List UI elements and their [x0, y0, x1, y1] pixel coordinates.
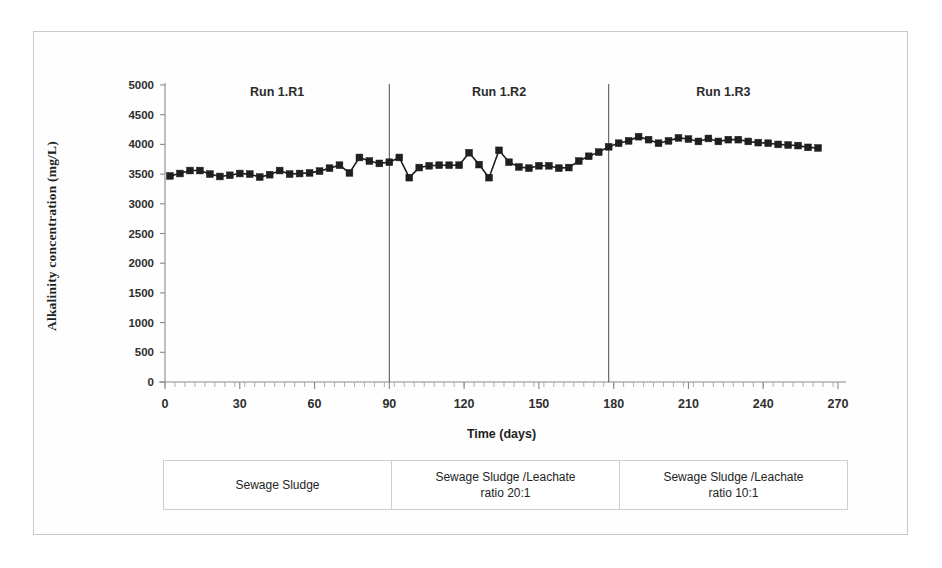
data-point-marker — [236, 170, 243, 177]
data-point-marker — [815, 145, 822, 152]
figure-container: Alkalinity concentration (mg/L) 05001000… — [0, 0, 942, 568]
data-point-marker — [695, 138, 702, 145]
data-point-marker — [256, 174, 263, 181]
x-tick-label: 240 — [753, 397, 774, 411]
data-point-marker — [426, 162, 433, 169]
data-point-marker — [486, 174, 493, 181]
condition-box-line1: Sewage Sludge /Leachate — [663, 469, 803, 485]
y-tick-label: 1000 — [128, 317, 154, 329]
y-tick-label: 0 — [148, 376, 154, 388]
data-point-marker — [406, 174, 413, 181]
data-point-marker — [745, 138, 752, 145]
data-point-marker — [446, 162, 453, 169]
y-tick-label: 2500 — [128, 228, 154, 240]
y-tick-label: 3500 — [128, 168, 154, 180]
data-point-marker — [226, 172, 233, 179]
data-point-marker — [516, 164, 523, 171]
data-point-marker — [276, 167, 283, 174]
x-tick-label: 60 — [308, 397, 322, 411]
data-point-marker — [436, 162, 443, 169]
x-tick-label: 30 — [233, 397, 247, 411]
x-tick-label: 210 — [678, 397, 699, 411]
data-point-marker — [376, 160, 383, 167]
y-tick-label: 5000 — [128, 79, 154, 91]
data-point-marker — [306, 170, 313, 177]
data-point-marker — [715, 138, 722, 145]
data-point-marker — [785, 142, 792, 149]
data-point-marker — [685, 136, 692, 143]
data-point-marker — [296, 170, 303, 177]
data-point-marker — [396, 154, 403, 161]
data-point-marker — [575, 158, 582, 165]
condition-box-1: Sewage Sludge — [164, 461, 392, 509]
data-point-marker — [585, 153, 592, 160]
data-point-marker — [645, 136, 652, 143]
data-point-marker — [286, 171, 293, 178]
data-point-marker — [167, 172, 174, 179]
data-point-marker — [775, 141, 782, 148]
data-point-marker — [555, 165, 562, 172]
data-point-marker — [197, 167, 204, 174]
data-point-marker — [496, 147, 503, 154]
data-point-marker — [506, 159, 513, 166]
y-tick-label: 2000 — [128, 257, 154, 269]
y-tick-label: 1500 — [128, 287, 154, 299]
y-tick-label: 4500 — [128, 109, 154, 121]
x-tick-label: 120 — [454, 397, 475, 411]
condition-box-3: Sewage Sludge /Leachateratio 10:1 — [620, 461, 847, 509]
data-point-marker — [755, 139, 762, 146]
data-point-marker — [805, 144, 812, 151]
data-point-marker — [386, 159, 393, 166]
run-label-2: Run 1.R2 — [472, 85, 526, 99]
data-point-marker — [635, 133, 642, 140]
x-tick-label: 150 — [528, 397, 549, 411]
data-point-marker — [545, 162, 552, 169]
data-point-marker — [795, 142, 802, 149]
data-point-marker — [725, 136, 732, 143]
x-tick-label: 180 — [603, 397, 624, 411]
data-point-marker — [316, 168, 323, 175]
y-tick-label: 3000 — [128, 198, 154, 210]
data-point-marker — [356, 154, 363, 161]
condition-box-line2: ratio 20:1 — [480, 485, 530, 501]
data-point-marker — [625, 137, 632, 144]
data-point-marker — [187, 167, 194, 174]
data-point-marker — [655, 140, 662, 147]
data-point-marker — [246, 171, 253, 178]
data-point-marker — [266, 171, 273, 178]
condition-box-line1: Sewage Sludge /Leachate — [435, 469, 575, 485]
data-point-marker — [765, 140, 772, 147]
x-tick-label: 0 — [162, 397, 169, 411]
data-point-marker — [595, 149, 602, 156]
data-point-marker — [216, 173, 223, 180]
data-point-marker — [526, 165, 533, 172]
data-point-marker — [366, 158, 373, 165]
x-tick-label: 270 — [828, 397, 849, 411]
condition-box-2: Sewage Sludge /Leachateratio 20:1 — [392, 461, 620, 509]
condition-box-line2: ratio 10:1 — [708, 485, 758, 501]
data-point-marker — [456, 162, 463, 169]
data-point-marker — [535, 162, 542, 169]
data-point-marker — [416, 164, 423, 171]
data-point-marker — [336, 162, 343, 169]
data-point-marker — [705, 135, 712, 142]
data-point-marker — [665, 137, 672, 144]
run-label-1: Run 1.R1 — [250, 85, 304, 99]
y-tick-label: 4000 — [128, 138, 154, 150]
data-point-marker — [565, 164, 572, 171]
data-point-marker — [206, 171, 213, 178]
condition-box-line1: Sewage Sludge — [235, 477, 319, 493]
data-point-marker — [675, 134, 682, 141]
x-tick-label: 90 — [382, 397, 396, 411]
data-point-marker — [346, 170, 353, 177]
x-axis-title: Time (days) — [467, 427, 536, 441]
data-point-marker — [615, 140, 622, 147]
data-point-marker — [735, 136, 742, 143]
run-label-3: Run 1.R3 — [696, 85, 750, 99]
data-point-marker — [466, 149, 473, 156]
y-tick-label: 500 — [135, 346, 154, 358]
data-point-marker — [326, 165, 333, 172]
condition-legend-boxes: Sewage SludgeSewage Sludge /Leachaterati… — [163, 460, 848, 510]
data-point-marker — [177, 170, 184, 177]
data-point-marker — [476, 161, 483, 168]
